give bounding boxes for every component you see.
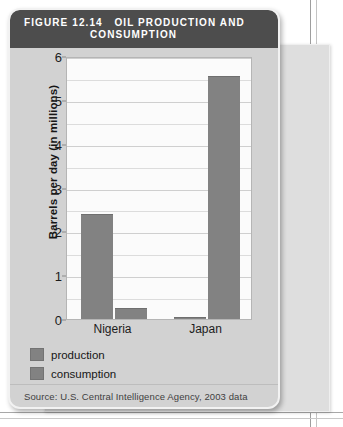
figure-title-line2: CONSUMPTION (24, 29, 177, 40)
legend-label-consumption: consumption (51, 368, 116, 380)
figure-header: FIGURE 12.14 OIL PRODUCTION AND CONSUMPT… (10, 10, 278, 48)
figure-title-line1: OIL PRODUCTION AND (114, 17, 244, 28)
y-axis-tick-label: 5 (55, 93, 62, 108)
legend-item-production: production (30, 346, 230, 363)
chart-legend: production consumption (30, 346, 230, 384)
bars-group (67, 58, 251, 319)
y-axis-tick-label: 0 (55, 313, 62, 328)
bar-nigeria-production (81, 214, 113, 319)
source-divider (10, 384, 278, 385)
legend-item-consumption: consumption (30, 365, 230, 382)
plot-area (66, 57, 252, 320)
y-axis-ticks: 0123456 (40, 57, 66, 320)
y-axis-tick-label: 3 (55, 181, 62, 196)
figure-card: FIGURE 12.14 OIL PRODUCTION AND CONSUMPT… (8, 8, 280, 409)
x-axis-label-japan: Japan (189, 322, 222, 336)
y-axis-tick-label: 6 (55, 50, 62, 65)
legend-swatch-production (30, 348, 44, 361)
page-bottom-line-inner (0, 418, 343, 419)
y-axis-tick-label: 1 (55, 269, 62, 284)
x-axis-label-nigeria: Nigeria (93, 322, 131, 336)
x-axis-labels: NigeriaJapan (66, 322, 252, 342)
bar-japan-consumption (208, 76, 240, 319)
y-axis-tick-label: 4 (55, 137, 62, 152)
chart-area: Barrels per day (in millions) 0123456 Ni… (10, 48, 278, 338)
figure-number-label: FIGURE 12.14 (24, 17, 103, 28)
y-axis-tick-label: 2 (55, 225, 62, 240)
legend-label-production: production (51, 349, 105, 361)
bar-japan-production (174, 317, 206, 319)
legend-swatch-consumption (30, 367, 44, 380)
figure-header-text: FIGURE 12.14 OIL PRODUCTION AND CONSUMPT… (10, 17, 255, 42)
source-note: Source: U.S. Central Intelligence Agency… (24, 391, 248, 402)
bar-nigeria-consumption (115, 308, 147, 319)
page-bottom-line-outer (0, 412, 343, 413)
